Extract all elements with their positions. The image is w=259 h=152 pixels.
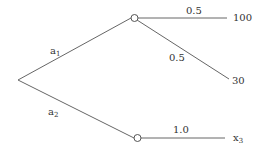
probability-upper-1: 0.5: [186, 5, 202, 16]
lower-chance-node: [134, 135, 141, 142]
branch-a2-label: a2: [48, 106, 58, 119]
decision-tree-diagram: a1 a2 0.5 0.5 1.0 100 30 x3: [0, 0, 259, 152]
branch-a1-label: a1: [50, 45, 60, 58]
payoff-30: 30: [232, 75, 245, 86]
payoff-100: 100: [233, 12, 252, 23]
probability-upper-2: 0.5: [169, 52, 185, 63]
branch-a2-line: [18, 80, 134, 138]
branch-a1-line: [18, 18, 131, 80]
payoff-x3: x3: [233, 132, 243, 145]
probability-lower-1: 1.0: [173, 124, 189, 135]
upper-chance-node: [131, 15, 138, 22]
upper-outcome-30-line: [137, 20, 229, 79]
